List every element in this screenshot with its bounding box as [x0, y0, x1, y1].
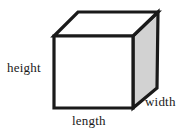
label-height: height	[7, 61, 41, 75]
cube-diagram-figure: height length width	[0, 0, 187, 133]
label-length: length	[72, 114, 106, 128]
label-width: width	[145, 95, 176, 109]
cube-front-face	[54, 36, 133, 108]
